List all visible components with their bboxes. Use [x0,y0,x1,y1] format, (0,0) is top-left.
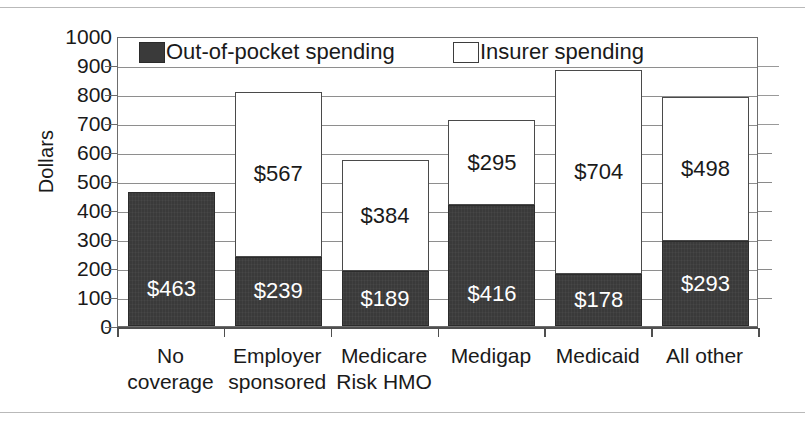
legend-item-insurer: Insurer spending [453,38,644,66]
bar-value-label-out-of-pocket: $463 [129,276,214,302]
y-tick-label: 800 [52,84,112,105]
y-tick-label: 1000 [52,26,112,47]
open-square-icon [453,42,479,63]
legend-label-out-of-pocket: Out-of-pocket spending [166,39,395,65]
y-tick-mark [105,211,117,212]
bar-value-label-out-of-pocket: $293 [663,271,748,297]
x-category-label-line: All other [637,343,772,369]
x-tick-mark [224,328,226,337]
bar-group[interactable]: $295$416 [448,36,535,326]
y-tick-mark [105,269,117,270]
right-tick-mark [758,182,772,183]
bar-value-label-insurer: $704 [556,159,641,185]
bar-value-label-insurer: $295 [449,150,534,176]
y-tick-label: 0 [52,316,112,337]
plot-area: $463$567$239$384$189$295$416$704$178$498… [117,37,758,327]
y-tick-label: 700 [52,113,112,134]
bar-segment-out-of-pocket[interactable]: $178 [555,274,642,326]
page-bottom-rule [0,412,805,413]
bar-segment-out-of-pocket[interactable]: $239 [235,257,322,326]
x-tick-mark [331,328,333,337]
x-tick-mark [117,328,119,337]
bar-segment-insurer[interactable]: $704 [555,70,642,274]
y-tick-label: 300 [52,229,112,250]
y-tick-mark [105,66,117,67]
y-tick-label: 100 [52,287,112,308]
bar-segment-insurer[interactable]: $498 [662,97,749,241]
x-tick-mark [438,328,440,337]
y-tick-mark [105,153,117,154]
gridline-overhang [758,95,779,96]
bar-value-label-out-of-pocket: $239 [236,278,321,304]
right-tick-mark [758,298,772,299]
y-tick-mark [105,298,117,299]
right-tick-mark [758,240,772,241]
gridline-overhang [758,124,779,125]
filled-square-icon [139,42,165,63]
y-tick-label: 900 [52,55,112,76]
x-category-label: All other [637,343,772,369]
x-tick-mark [544,328,546,337]
chart-legend: Out-of-pocket spending Insurer spending [117,38,758,66]
legend-item-out-of-pocket: Out-of-pocket spending [139,38,395,66]
bar-segment-out-of-pocket[interactable]: $416 [448,205,535,326]
y-tick-mark [105,182,117,183]
bar-value-label-out-of-pocket: $189 [343,286,428,312]
y-tick-mark [105,124,117,125]
bar-value-label-insurer: $567 [236,161,321,187]
y-tick-mark [105,240,117,241]
right-tick-mark [758,211,772,212]
x-category-label-line: Risk HMO [317,369,452,395]
x-tick-mark [758,328,760,337]
bar-segment-insurer[interactable]: $295 [448,120,535,206]
right-tick-mark [758,269,772,270]
chart-figure: Dollars 10009008007006005004003002001000… [0,0,805,421]
bar-value-label-out-of-pocket: $416 [449,281,534,307]
y-tick-label: 600 [52,142,112,163]
x-tick-mark [651,328,653,337]
bar-segment-out-of-pocket[interactable]: $189 [342,271,429,326]
bar-group[interactable]: $384$189 [342,36,429,326]
y-tick-label: 500 [52,171,112,192]
y-tick-label: 200 [52,258,112,279]
bar-segment-out-of-pocket[interactable]: $463 [128,192,215,326]
bar-value-label-insurer: $384 [343,203,428,229]
bar-group[interactable]: $704$178 [555,36,642,326]
bar-value-label-out-of-pocket: $178 [556,287,641,313]
page-top-rule [0,7,805,8]
bar-segment-insurer[interactable]: $567 [235,92,322,256]
y-tick-label: 400 [52,200,112,221]
bar-segment-insurer[interactable]: $384 [342,160,429,271]
bar-value-label-insurer: $498 [663,156,748,182]
y-tick-mark [105,95,117,96]
bar-group[interactable]: $463 [128,36,215,326]
bar-segment-out-of-pocket[interactable]: $293 [662,241,749,326]
bar-group[interactable]: $498$293 [662,36,749,326]
legend-label-insurer: Insurer spending [480,39,644,65]
bar-group[interactable]: $567$239 [235,36,322,326]
gridline-overhang [758,66,779,67]
y-tick-mark [105,327,117,328]
right-tick-mark [758,153,772,154]
